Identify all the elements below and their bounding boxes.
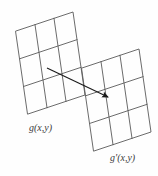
target-grid-vline-1 <box>101 62 113 145</box>
target-grid-vline-2 <box>120 55 132 138</box>
target-grid-label: g'(x,y) <box>110 152 135 163</box>
figure-canvas <box>0 0 158 176</box>
target-grid-outline <box>82 49 151 151</box>
mapping-arrow <box>47 68 108 97</box>
source-grid-vline-2 <box>54 18 66 101</box>
figure-baseline <box>0 175 158 176</box>
source-grid-label: g(x,y) <box>29 122 52 133</box>
mapping-arrow-shaft <box>47 68 108 97</box>
source-grid-vline-1 <box>35 25 47 108</box>
source-grid-outline <box>16 12 85 114</box>
target-grid <box>82 49 151 151</box>
target-grid-hline-1 <box>86 77 143 96</box>
transformation-figure: g(x,y) g'(x,y) <box>0 0 158 176</box>
source-grid <box>16 12 85 114</box>
target-grid-hline-2 <box>90 104 147 123</box>
source-grid-hline-1 <box>20 40 77 59</box>
